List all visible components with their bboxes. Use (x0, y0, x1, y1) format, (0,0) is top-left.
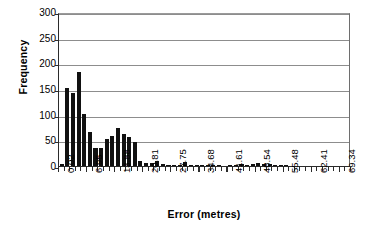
x-axis-tick (165, 167, 166, 171)
x-axis-tick-label: 69.34 (346, 139, 358, 173)
bar (256, 163, 260, 166)
x-axis-tick (193, 167, 194, 171)
bar (110, 136, 114, 166)
bar (82, 114, 86, 166)
x-axis-tick (109, 167, 110, 171)
histogram-figure: Frequency 050100150200250300 0.026.9513.… (0, 0, 366, 235)
x-axis-tick (221, 167, 222, 171)
bar (161, 164, 165, 166)
x-axis-tick-label: 55.48 (289, 139, 301, 173)
bar (228, 165, 232, 166)
x-axis-tick (333, 167, 334, 171)
bar (251, 164, 255, 166)
bar (284, 165, 288, 166)
y-axis-tick-label: 0 (26, 162, 56, 172)
y-axis-tick-label: 100 (26, 111, 56, 121)
x-axis-tick-label: 41.61 (233, 139, 245, 173)
bar (217, 165, 221, 166)
y-axis-tick-label: 50 (26, 136, 56, 146)
x-axis-tick-label: 13.88 (121, 139, 133, 173)
x-axis-tick (249, 167, 250, 171)
y-axis-tick-labels: 050100150200250300 (26, 8, 56, 173)
x-axis-tick-label: 34.68 (205, 139, 217, 173)
x-axis-tick-label: 27.75 (177, 139, 189, 173)
bar (200, 165, 204, 166)
bar (172, 165, 176, 166)
bar (133, 142, 137, 166)
x-axis-tick (305, 167, 306, 171)
bar (245, 165, 249, 166)
bar (189, 165, 193, 166)
x-axis-tick-label: 62.41 (318, 139, 330, 173)
y-axis-tick-label: 300 (26, 8, 56, 18)
bar (105, 139, 109, 166)
bar (116, 128, 120, 166)
bar (88, 132, 92, 166)
x-axis-tick (137, 167, 138, 171)
bar (279, 165, 283, 166)
x-axis-tick-label: 20.81 (149, 139, 161, 173)
x-axis-tick (80, 167, 81, 171)
bar (60, 164, 64, 166)
x-axis-tick (277, 167, 278, 171)
x-axis-title: Error (metres) (58, 208, 350, 220)
bar (144, 163, 148, 166)
y-axis-tick-label: 250 (26, 34, 56, 44)
x-axis-tick-label: 0.02 (65, 139, 77, 173)
bar (77, 72, 81, 166)
y-axis-tick-label: 150 (26, 85, 56, 95)
x-axis-tick-label: 6.95 (93, 139, 105, 173)
bar (138, 161, 142, 166)
x-axis-tick-labels: 0.026.9513.8820.8127.7534.6841.6148.5455… (58, 172, 350, 204)
bar (166, 165, 170, 166)
bar (273, 165, 277, 166)
bar (195, 165, 199, 166)
y-axis-tick-label: 200 (26, 59, 56, 69)
x-axis-tick-label: 48.54 (261, 139, 273, 173)
